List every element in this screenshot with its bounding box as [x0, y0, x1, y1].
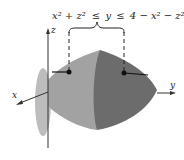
inequality-op1: ≤ — [92, 10, 100, 21]
inequality-op2: ≤ — [116, 10, 124, 21]
y-axis-label: y — [169, 80, 176, 90]
inequality-left: x² + z² — [52, 10, 86, 21]
upper-paraboloid-surface — [94, 50, 157, 130]
z-axis-label: z — [50, 25, 56, 35]
left-point — [67, 70, 72, 75]
x-axis-label: x — [12, 90, 17, 100]
lower-paraboloid-surface — [48, 50, 100, 130]
inequality-mid: y — [104, 10, 111, 21]
brace — [69, 22, 124, 33]
inequality-right: 4 − x² − z² — [129, 10, 184, 21]
y-axis-arrow — [170, 91, 176, 95]
right-point — [122, 71, 127, 76]
z-axis-arrow — [46, 28, 50, 34]
solid-region-diagram: z y x x² + z² ≤ y ≤ 4 − x² − z² — [0, 0, 184, 160]
x-axis-arrow — [16, 100, 23, 105]
inequality-label: x² + z² ≤ y ≤ 4 − x² − z² — [52, 10, 184, 21]
